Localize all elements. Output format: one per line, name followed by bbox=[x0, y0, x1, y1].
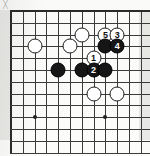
grid-line-horizontal bbox=[10, 153, 150, 154]
grid-line-horizontal bbox=[10, 58, 150, 59]
grid-line-horizontal bbox=[10, 105, 150, 106]
grid-line-horizontal bbox=[10, 141, 150, 142]
stone-white[interactable] bbox=[63, 39, 78, 54]
stone-black[interactable] bbox=[98, 63, 113, 78]
grid-line-horizontal bbox=[10, 82, 150, 83]
stone-white[interactable] bbox=[27, 39, 42, 54]
move-number-label: 4 bbox=[111, 40, 124, 53]
grid-line-horizontal bbox=[10, 10, 150, 12]
star-point bbox=[103, 115, 107, 119]
stone-white[interactable] bbox=[110, 86, 125, 101]
stone-white[interactable] bbox=[86, 86, 101, 101]
grid-line-horizontal bbox=[10, 129, 150, 130]
stone-black-move-4[interactable]: 4 bbox=[110, 39, 125, 54]
stone-white[interactable] bbox=[74, 27, 89, 42]
grid-line-horizontal bbox=[10, 117, 150, 118]
stone-black[interactable] bbox=[51, 63, 66, 78]
grid-line-horizontal bbox=[10, 23, 150, 24]
go-diagram-root: ╳ 53412 bbox=[0, 0, 150, 156]
grid-line-horizontal bbox=[10, 94, 150, 95]
star-point bbox=[33, 115, 37, 119]
go-board[interactable]: 53412 bbox=[0, 0, 150, 156]
